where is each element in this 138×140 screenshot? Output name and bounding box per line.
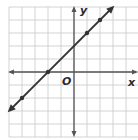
origin-label: O: [62, 75, 71, 88]
y-axis-label: y: [80, 4, 88, 17]
x-axis-label: x: [127, 76, 136, 89]
axes: [8, 6, 138, 137]
y-axis-down-arrow-icon: [72, 131, 77, 137]
data-point: [98, 18, 102, 22]
coordinate-graph: y x O: [0, 0, 138, 140]
data-point: [20, 96, 24, 100]
x-axis-right-arrow-icon: [132, 70, 138, 75]
data-point: [85, 31, 89, 35]
data-point: [46, 70, 50, 74]
